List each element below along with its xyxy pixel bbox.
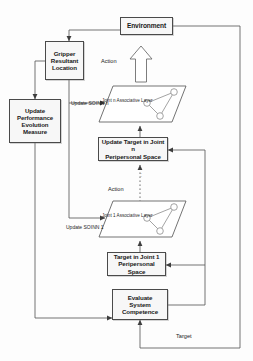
vertical-ellipsis-joint-stack: · · · [136, 168, 146, 179]
label-target: Target [176, 333, 192, 339]
performance-line-4: Measure [16, 128, 54, 135]
performance-line-1: Update [16, 107, 54, 114]
node-gripper-resultant-location[interactable]: Gripper Resultant Location [45, 41, 84, 80]
target-1-line-1: Target in Joint 1 [108, 253, 165, 260]
evaluate-line-3: Competence [121, 308, 159, 315]
node-evaluate-system-competence[interactable]: Evaluate System Competence [112, 289, 168, 320]
ellipsis-dot-3: · [136, 175, 146, 179]
node-environment-label: Environment [126, 22, 167, 30]
performance-line-2: Performance [16, 114, 54, 121]
edge-environment-right-rail [173, 26, 240, 348]
label-action-mid: Action [108, 186, 124, 192]
node-update-performance-evolution-measure[interactable]: Update Performance Evolution Measure [9, 99, 61, 143]
block-arrow-up-icon [130, 46, 152, 82]
label-action-top: Action [101, 58, 117, 64]
edge-evaluate-to-target-1 [166, 265, 205, 305]
plane-joint-1-line-1: Joint 1 [102, 213, 116, 218]
gripper-line-2: Resultant [50, 57, 79, 64]
update-soinn-n-line-1: Update [71, 100, 87, 106]
plane-joint-1-line-2: Associative Layer [117, 213, 153, 218]
evaluate-line-2: System [121, 301, 159, 308]
update-soinn-n-line-2: SOINN n [89, 100, 109, 106]
node-environment[interactable]: Environment [120, 17, 173, 35]
performance-line-3: Evolution [16, 121, 54, 128]
update-soinn-1-line-2: SOINN 1 [84, 224, 104, 230]
edge-gripper-to-update-performance [35, 61, 45, 99]
update-soinn-1-line-1: Update [66, 224, 82, 230]
plane-joint-n-line-2: Associative Layer [117, 98, 153, 103]
plane-joint-n-label: Joint n Associative Layer [102, 98, 152, 103]
update-target-n-line-2: Peripersonal Space [99, 153, 167, 160]
diagram-canvas: Environment Gripper Resultant Location U… [0, 0, 253, 361]
evaluate-line-1: Evaluate [121, 294, 159, 301]
update-target-n-line-1: Update Target in Joint n [99, 138, 167, 153]
target-1-line-2: Peripersonal Space [108, 260, 165, 275]
node-target-joint-1[interactable]: Target in Joint 1 Peripersonal Space [107, 252, 166, 276]
label-update-soinn-1: Update SOINN 1 [66, 224, 104, 231]
label-update-soinn-n: Update SOINN n [71, 100, 109, 107]
gripper-line-3: Location [50, 64, 79, 71]
gripper-line-1: Gripper [50, 50, 79, 57]
plane-joint-1-label: Joint 1 Associative Layer [102, 213, 152, 218]
node-update-target-joint-n[interactable]: Update Target in Joint n Peripersonal Sp… [98, 137, 168, 161]
